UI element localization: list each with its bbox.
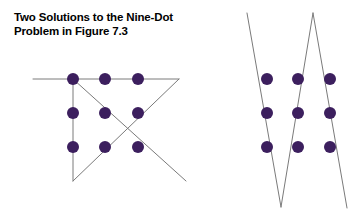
solution-right-dots (261, 73, 336, 153)
grid-dot (99, 107, 111, 119)
grid-dot (132, 107, 144, 119)
grid-dot (261, 107, 273, 119)
solution-line (73, 79, 186, 181)
grid-dot (324, 107, 336, 119)
grid-dot (292, 141, 304, 153)
grid-dot (261, 141, 273, 153)
solution-left-dots (67, 73, 144, 153)
grid-dot (132, 73, 144, 85)
grid-dot (132, 141, 144, 153)
grid-dot (292, 73, 304, 85)
grid-dot (324, 141, 336, 153)
grid-dot (99, 141, 111, 153)
nine-dot-figure: Two Solutions to the Nine-Dot Problem in… (0, 0, 361, 223)
grid-dot (67, 73, 79, 85)
figure-canvas (0, 0, 361, 223)
grid-dot (261, 73, 273, 85)
solution-line (73, 79, 179, 181)
grid-dot (67, 107, 79, 119)
grid-dot (324, 73, 336, 85)
solution-left-lines (33, 79, 186, 181)
solution-right (247, 13, 347, 208)
grid-dot (99, 73, 111, 85)
grid-dot (292, 107, 304, 119)
grid-dot (67, 141, 79, 153)
solution-left (33, 73, 186, 181)
